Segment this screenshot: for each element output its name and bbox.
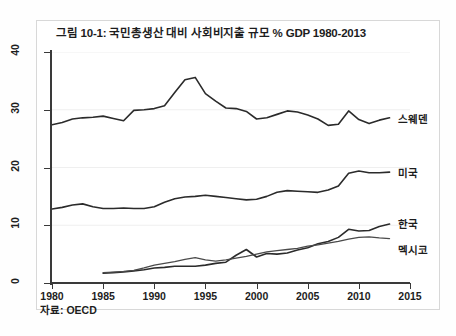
series-line-united-states xyxy=(52,171,390,209)
x-tick-mark xyxy=(154,283,155,289)
chart-canvas xyxy=(52,52,410,283)
series-line-korea xyxy=(103,224,389,273)
source-note: 자료: OECD xyxy=(40,302,97,317)
y-tick-label: 10 xyxy=(9,206,21,240)
chart-title: 그림 10-1: 국민총생산 대비 사회비지출 규모 % GDP 1980-20… xyxy=(56,24,414,43)
x-tick-mark xyxy=(257,283,258,289)
y-tick-label: 30 xyxy=(9,91,21,125)
figure-container: 그림 10-1: 국민총생산 대비 사회비지출 규모 % GDP 1980-20… xyxy=(0,0,456,336)
y-tick-label: 20 xyxy=(9,149,21,183)
x-tick-label: 1985 xyxy=(80,290,126,302)
y-tick-mark xyxy=(44,225,51,226)
x-tick-mark xyxy=(205,283,206,289)
x-tick-mark xyxy=(359,283,360,289)
y-tick-mark xyxy=(44,52,51,53)
y-tick-mark xyxy=(44,110,51,111)
series-label-mexico: 멕시코 xyxy=(398,242,428,257)
series-line-sweden xyxy=(52,77,390,125)
x-tick-label: 2000 xyxy=(234,290,280,302)
x-tick-mark xyxy=(308,283,309,289)
x-tick-mark xyxy=(52,283,53,289)
series-label-united-states: 미국 xyxy=(398,165,418,180)
x-tick-label: 2010 xyxy=(336,290,382,302)
y-tick-mark xyxy=(44,283,51,284)
x-tick-mark xyxy=(103,283,104,289)
x-tick-mark xyxy=(410,283,411,289)
x-tick-label: 1990 xyxy=(131,290,177,302)
x-tick-label: 1995 xyxy=(182,290,228,302)
y-tick-label: 40 xyxy=(9,33,21,67)
y-tick-mark xyxy=(44,168,51,169)
x-tick-label: 1980 xyxy=(29,290,75,302)
series-label-sweden: 스웨덴 xyxy=(398,111,428,126)
plot-area xyxy=(52,52,410,283)
series-label-korea: 한국 xyxy=(398,216,418,231)
series-line-mexico xyxy=(103,237,389,273)
x-tick-label: 2005 xyxy=(285,290,331,302)
x-tick-label: 2015 xyxy=(387,290,433,302)
y-tick-label: 0 xyxy=(9,264,21,298)
